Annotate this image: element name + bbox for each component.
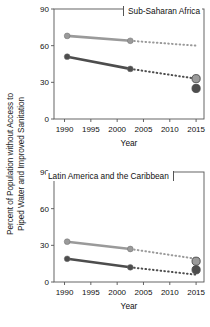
y-tick-label: 90: [40, 5, 49, 14]
series-line-improved-sanitation-observed-: [67, 259, 130, 268]
data-point-marker: [64, 256, 70, 262]
data-point-marker: [64, 239, 70, 245]
endpoint-marker: [192, 257, 200, 265]
panels-container: 0306090199019952000200520102015Year Sub-…: [32, 0, 210, 327]
panel-title-top: Sub-Saharan Africa: [123, 6, 202, 16]
series-line-improved-sanitation-observed-: [67, 57, 130, 69]
x-tick-label: 1990: [56, 288, 74, 297]
series-line-improved-sanitation-projected-: [130, 267, 196, 274]
x-tick-label: 2015: [187, 125, 205, 134]
y-tick-label: 30: [40, 78, 49, 87]
x-tick-label: 2000: [108, 288, 126, 297]
x-tick-label: 2005: [135, 125, 153, 134]
chart-bottom-svg: 0306090199019952000200520102015Year: [32, 163, 210, 326]
series-line-piped-water-observed-: [67, 36, 130, 41]
chart-top-svg: 0306090199019952000200520102015Year: [32, 0, 210, 163]
x-axis-title: Year: [121, 138, 138, 148]
x-tick-label: 2005: [135, 288, 153, 297]
y-axis-label-line-1: Percent of Population without Access to: [6, 93, 17, 235]
x-tick-label: 2010: [161, 125, 179, 134]
x-tick-label: 2015: [187, 288, 205, 297]
x-tick-label: 1995: [82, 125, 100, 134]
panel-sub-saharan-africa: 0306090199019952000200520102015Year Sub-…: [32, 0, 210, 163]
x-tick-label: 1995: [82, 288, 100, 297]
y-axis-label: Percent of Population without Access to …: [6, 93, 27, 235]
y-tick-label: 30: [40, 241, 49, 250]
y-tick-label: 0: [45, 115, 50, 124]
x-tick-label: 1990: [56, 125, 74, 134]
endpoint-marker: [192, 84, 200, 92]
x-tick-label: 2010: [161, 288, 179, 297]
series-line-improved-sanitation-projected-: [130, 69, 196, 79]
panel-title-bottom: Latin America and the Caribbean: [46, 171, 174, 181]
series-line-piped-water-observed-: [67, 242, 130, 249]
figure-container: Percent of Population without Access to …: [0, 0, 210, 327]
data-point-marker: [64, 33, 70, 39]
y-tick-label: 0: [45, 278, 50, 287]
endpoint-marker: [192, 75, 200, 83]
series-line-piped-water-projected-: [130, 41, 196, 46]
y-tick-label: 60: [40, 42, 49, 51]
plot-frame: [54, 9, 204, 119]
y-axis-label-column: Percent of Population without Access to …: [0, 0, 32, 327]
y-axis-label-line-2: Piped Water and Improved Sanitation: [16, 93, 27, 235]
y-tick-label: 60: [40, 205, 49, 214]
panel-latin-america-caribbean: 0306090199019952000200520102015Year Lati…: [32, 163, 210, 326]
endpoint-marker: [192, 266, 200, 274]
series-line-piped-water-projected-: [130, 249, 196, 259]
data-point-marker: [64, 54, 70, 60]
x-tick-label: 2000: [108, 125, 126, 134]
x-axis-title: Year: [121, 301, 138, 311]
